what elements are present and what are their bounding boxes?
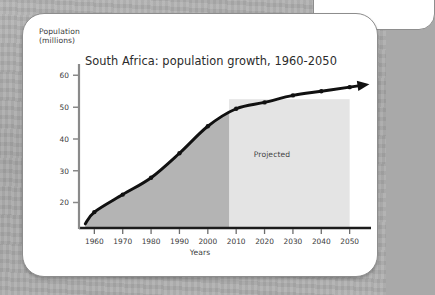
x-axis-title: Years	[23, 248, 377, 257]
data-point-marker	[121, 192, 125, 196]
data-point-marker	[149, 176, 153, 180]
x-axis-tick-label: 2000	[198, 237, 217, 246]
projected-region-label: Projected	[254, 150, 290, 159]
data-point-marker	[234, 107, 238, 111]
chart-card: Population (millions) South Africa: popu…	[22, 13, 378, 277]
x-axis-tick-label: 1970	[113, 237, 132, 246]
x-axis-tick-labels: 1960197019801990200020102020203020402050	[85, 229, 359, 246]
x-axis-tick-label: 2010	[227, 237, 246, 246]
y-axis-tick-label: 50	[60, 103, 70, 112]
data-point-marker	[206, 124, 210, 128]
data-point-marker	[319, 89, 323, 93]
data-point-marker	[262, 100, 266, 104]
data-point-marker	[177, 151, 181, 155]
data-point-marker	[291, 93, 295, 97]
projected-region-shading	[229, 99, 350, 228]
y-axis-tick-label: 40	[60, 135, 70, 144]
x-axis-tick-label: 2050	[340, 237, 359, 246]
x-axis-tick-label: 1980	[142, 237, 161, 246]
data-point-marker	[92, 210, 96, 214]
x-axis-tick-label: 1960	[85, 237, 104, 246]
x-axis-tick-label: 1990	[170, 237, 189, 246]
x-axis-tick-label: 2030	[284, 237, 303, 246]
x-axis-tick-label: 2040	[312, 237, 331, 246]
y-axis-tick-label: 20	[60, 198, 70, 207]
data-point-marker	[347, 85, 351, 89]
y-axis-tick-labels: 2030405060	[60, 71, 79, 207]
y-axis-tick-label: 30	[60, 167, 70, 176]
x-axis-tick-label: 2020	[255, 237, 274, 246]
series-arrowhead	[357, 81, 370, 91]
y-axis-tick-label: 60	[60, 71, 70, 80]
shaded-regions	[229, 99, 350, 228]
population-growth-line-chart: 1960197019801990200020102020203020402050…	[23, 14, 377, 276]
